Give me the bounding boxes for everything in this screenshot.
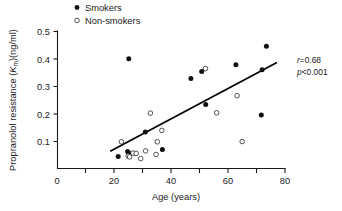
statistics-annotation: r=0.68 p<0.001	[296, 55, 328, 77]
legend-label-non-smokers: Non-smokers	[85, 16, 141, 26]
y-axis-title-suffix: )(ng/ml)	[8, 29, 18, 61]
legend-marker-smokers	[75, 5, 80, 10]
data-point-non-smoker	[134, 151, 139, 156]
plot-canvas: 0.5 0.4 0.3 0.2 0.1 0 20 40 60 80 Age (y…	[0, 0, 342, 211]
data-point-non-smoker	[240, 139, 245, 144]
data-point-non-smoker	[160, 128, 165, 133]
pvalue-value: 0.001	[307, 67, 328, 77]
data-point-non-smoker	[203, 66, 208, 71]
x-axis-tick-labels: 0 20 40 60 80	[54, 176, 290, 186]
pvalue-annotation: p<0.001	[296, 67, 328, 77]
data-point-smoker	[188, 76, 193, 81]
legend: Smokers Non-smokers	[75, 3, 141, 26]
data-point-smoker	[126, 56, 131, 61]
data-point-non-smoker	[214, 111, 219, 116]
y-axis-title: Propranolol resistance (Km)(ng/ml)	[8, 29, 19, 171]
data-point-non-smoker	[138, 156, 143, 161]
data-point-non-smoker	[119, 140, 124, 145]
regression-line	[110, 63, 277, 152]
data-point-non-smoker	[235, 93, 240, 98]
x-tick-label-20: 20	[109, 176, 119, 186]
legend-marker-non-smokers	[75, 18, 80, 23]
data-point-smoker	[160, 147, 165, 152]
y-tick-label-0.3: 0.3	[37, 82, 50, 92]
y-axis-tick-labels: 0.5 0.4 0.3 0.2 0.1	[37, 27, 50, 147]
series-smokers	[116, 44, 269, 159]
data-point-smoker	[260, 67, 265, 72]
y-tick-label-0.4: 0.4	[37, 55, 50, 65]
y-tick-label-0.5: 0.5	[37, 27, 50, 37]
x-axis-ticks	[86, 169, 286, 174]
data-point-smoker	[203, 102, 208, 107]
correlation-value: 0.68	[305, 55, 322, 65]
data-point-non-smoker	[127, 155, 132, 160]
data-point-non-smoker	[148, 111, 153, 116]
y-tick-label-0.1: 0.1	[37, 137, 50, 147]
y-axis-ticks	[54, 32, 58, 142]
axes-group	[58, 31, 286, 169]
data-point-smoker	[259, 113, 264, 118]
data-point-non-smoker	[155, 140, 160, 145]
data-point-smoker	[116, 154, 121, 159]
svg-text:Propranolol resistance (Km)(ng: Propranolol resistance (Km)(ng/ml)	[8, 29, 19, 171]
y-tick-label-0.2: 0.2	[37, 110, 50, 120]
data-point-smoker	[264, 44, 269, 49]
data-point-non-smoker	[154, 152, 159, 157]
x-tick-label-80: 80	[280, 176, 290, 186]
data-point-non-smoker	[143, 149, 148, 154]
x-axis-title: Age (years)	[152, 192, 200, 202]
data-point-smoker	[143, 129, 148, 134]
correlation-annotation: r=0.68	[297, 55, 321, 65]
x-tick-label-60: 60	[223, 176, 233, 186]
x-tick-label-40: 40	[166, 176, 176, 186]
x-tick-label-0: 0	[54, 176, 59, 186]
y-axis-title-prefix: Propranolol resistance (	[8, 72, 18, 171]
data-point-smoker	[233, 62, 238, 67]
legend-label-smokers: Smokers	[85, 3, 122, 13]
scatter-plot-figure: 0.5 0.4 0.3 0.2 0.1 0 20 40 60 80 Age (y…	[0, 0, 342, 211]
